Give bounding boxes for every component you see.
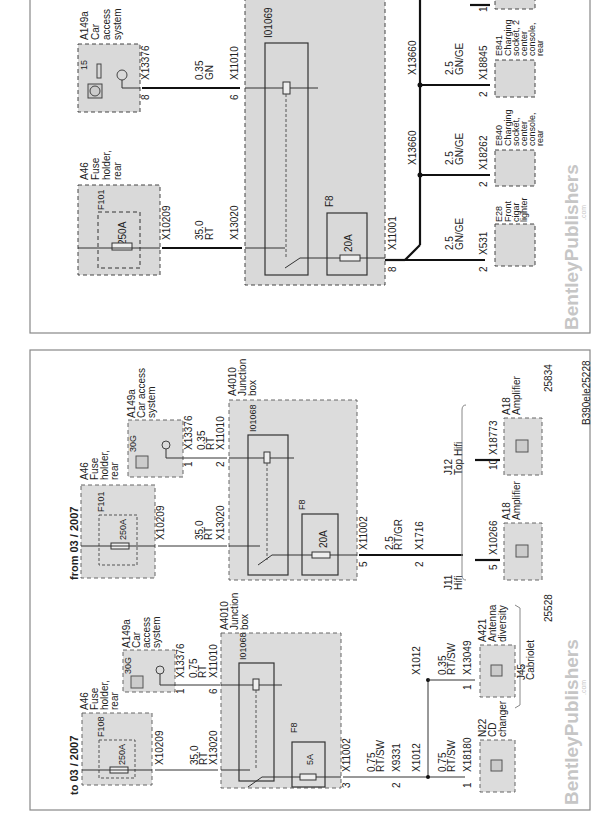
amp1-connector: X10266 xyxy=(488,520,499,555)
a46-label-1: Fuse xyxy=(90,157,101,180)
fuse-icon xyxy=(300,774,316,780)
splice-point xyxy=(426,775,430,779)
junction-connector-in1: X11010 xyxy=(229,46,240,80)
connector-mid-right: X1716 xyxy=(414,521,425,550)
junction-left-pin-out: 3 xyxy=(341,782,352,788)
bottom-panel: from 03 / 2007 A46 Fuse holder, rear F10… xyxy=(30,350,592,810)
amplifier-icon xyxy=(516,440,528,452)
junction-box-top: I01069 F8 20A X11001 8 xyxy=(245,0,398,285)
connector-mid-right-pin: 2 xyxy=(414,561,425,567)
junction-right-connector-out: X11002 xyxy=(358,516,369,550)
wire-ctrl-left-color: RT xyxy=(197,665,208,678)
relay-coil-icon xyxy=(253,679,259,690)
e28-box xyxy=(495,224,535,266)
e841-wire-color: GN/GE xyxy=(454,42,465,75)
a149a-right-connector: X13376 xyxy=(183,415,194,450)
wire-1-color: GN xyxy=(204,65,215,80)
cd-changer-icon xyxy=(491,760,502,771)
a46-right-fuse-id: F101 xyxy=(96,491,106,512)
control-unit-icon xyxy=(131,676,143,688)
junction-left-label-2: box xyxy=(239,614,250,630)
e28-pin: 2 xyxy=(478,266,489,272)
junction-right-pin-out: 5 xyxy=(358,561,369,567)
relay-coil-icon xyxy=(283,82,290,94)
amplifier-icon xyxy=(516,545,528,557)
fuse-icon xyxy=(112,243,132,250)
junction-left-connector-in2: X13020 xyxy=(208,730,219,765)
antenna-label-2: diversity xyxy=(497,605,508,642)
a46-label-3: rear xyxy=(112,162,123,180)
partial-pin: 1 xyxy=(478,6,489,12)
figure-id: B390ele25228 xyxy=(581,360,592,425)
a46-fuse-rating: 250A xyxy=(117,221,128,245)
option-j11-label: Hifi xyxy=(453,576,464,590)
wire-2-color: RT xyxy=(204,227,215,240)
a149a-right-label-2: system xyxy=(146,386,157,418)
a149a-terminal: 15 xyxy=(79,60,89,70)
relay-id: I01069 xyxy=(263,7,274,38)
e840-pin: 2 xyxy=(478,181,489,187)
section-title-to: to 03 / 2007 xyxy=(68,736,80,795)
e28-label-3: lighter xyxy=(519,197,529,222)
fuse-icon xyxy=(340,255,360,261)
wire-out-left-color: RT/SW xyxy=(375,739,386,772)
a46-connector: X10209 xyxy=(161,205,172,240)
watermark: BentleyPublishers xyxy=(561,639,582,805)
control-unit-icon xyxy=(136,456,148,468)
junction-left-connector-in1: X11010 xyxy=(208,644,219,678)
junction-left-pin-in1: 6 xyxy=(208,688,219,694)
junction-right-connector-in1: X11010 xyxy=(215,416,226,450)
a149a-left-label-3: system xyxy=(151,616,162,648)
junction-right-label-2: box xyxy=(247,380,258,396)
option-j12-label: Top Hifi xyxy=(453,442,464,475)
a149a-connector: X13376 xyxy=(140,45,151,80)
e28-connector: X531 xyxy=(478,231,489,255)
section-title-from: from 03 / 2007 xyxy=(68,507,80,580)
relay-left-id: I01068 xyxy=(238,632,248,660)
e840-box xyxy=(495,150,535,186)
amp2-connector: X18773 xyxy=(488,420,499,455)
a149a-left-pin: 1 xyxy=(175,688,186,694)
a46-fuse-id: F101 xyxy=(96,189,106,210)
amp2-label: Amplifier xyxy=(511,375,522,415)
a46-left-fuse-id: F108 xyxy=(96,716,106,737)
a149a-label-3: system xyxy=(112,8,123,40)
junction-right-fuse-id: F8 xyxy=(297,499,307,510)
cd-connector: X18180 xyxy=(462,737,473,772)
splice-point xyxy=(418,83,423,88)
junction-pin-in1: 6 xyxy=(229,94,240,100)
wire-main-right-color: RT xyxy=(203,527,214,540)
connector-mid-left: X9331 xyxy=(391,743,402,772)
a46-left-connector: X10209 xyxy=(154,730,165,765)
junction-fuse-rating: 20A xyxy=(343,234,354,252)
antenna-connector: X13049 xyxy=(462,640,473,675)
ref-number-right: 25834 xyxy=(543,364,554,392)
junction-left-fuse-id: F8 xyxy=(289,722,299,733)
watermark: BentleyPublishers xyxy=(561,164,582,330)
splice-label-2: X13660 xyxy=(407,40,418,75)
option-j45-label: Cabriolet xyxy=(525,640,536,680)
a149a-left-terminal: 30G xyxy=(123,657,133,674)
junction-right-connector-in2: X13020 xyxy=(215,505,226,540)
junction-fuse-id: F8 xyxy=(324,195,335,207)
splice-point xyxy=(418,173,423,178)
a149a-label-1: Car xyxy=(90,23,101,40)
e840-label-5: rear xyxy=(535,130,545,146)
cd-pin: 1 xyxy=(462,782,473,788)
a149a-box xyxy=(78,44,140,112)
splice-left-1: X1012 xyxy=(411,743,422,772)
connector-mid-left-pin: 2 xyxy=(391,782,402,788)
junction-connector-out: X11001 xyxy=(387,216,398,250)
e841-pin: 2 xyxy=(478,91,489,97)
e28-wire-color: GN/GE xyxy=(454,217,465,250)
amp1-pin: 5 xyxy=(488,564,499,570)
watermark-suffix: .com xyxy=(580,205,587,220)
a46-left-label-3: rear xyxy=(109,692,120,710)
a46-right-label-3: rear xyxy=(109,462,120,480)
antenna-wire-color: RT/SW xyxy=(446,642,457,675)
amp2-pin: 10 xyxy=(488,458,499,470)
cd-wire-color: RT/SW xyxy=(446,739,457,772)
e840-wire-color: GN/GE xyxy=(454,132,465,165)
e840-connector: X18262 xyxy=(478,135,489,170)
partial-component-box xyxy=(495,0,535,9)
